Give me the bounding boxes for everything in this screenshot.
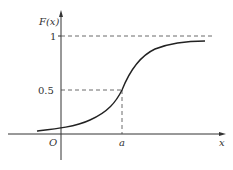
x-tick-a-label: a (119, 137, 125, 148)
origin-label: O (49, 137, 57, 148)
y-axis-arrow-icon (59, 10, 63, 17)
y-tick-one-label: 1 (50, 31, 56, 42)
y-axis-label: F(x) (38, 16, 59, 27)
x-axis-label: x (219, 137, 225, 148)
x-axis-arrow-icon (219, 132, 226, 136)
y-tick-half-label: 0.5 (38, 85, 54, 96)
cdf-curve (37, 41, 205, 131)
cdf-chart: F(x) 1 0.5 O a x (0, 0, 233, 170)
